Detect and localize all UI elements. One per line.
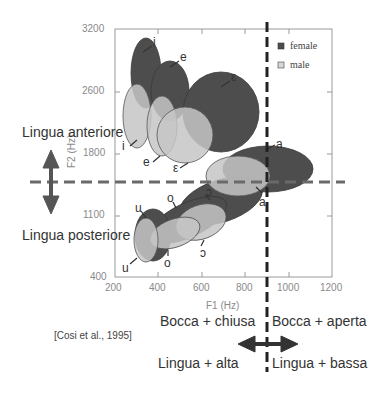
ellipse-male-eps [157, 107, 213, 163]
x-tick-200: 200 [105, 282, 122, 293]
label-male-a: a [259, 195, 266, 209]
x-axis-label: F1 (Hz) [206, 300, 239, 311]
citation: [Cosi et al., 1995] [54, 330, 132, 341]
y-tick-1100: 1100 [83, 209, 105, 220]
label-tongue-front: Lingua anteriore [22, 124, 123, 140]
y-tick-3200: 3200 [82, 23, 104, 34]
x-tick-1200: 1200 [320, 282, 342, 293]
label-female-open-o: ɔ [200, 246, 206, 260]
y-tick-400: 400 [90, 271, 107, 282]
label-male-eps: ε [173, 161, 179, 175]
x-tick-600: 600 [193, 282, 210, 293]
ellipse-male-u [134, 218, 158, 262]
ellipse-male-a [206, 156, 270, 196]
legend-male-swatch [278, 62, 284, 68]
label-female-u: u [135, 201, 142, 215]
label-female-a: a [276, 137, 283, 151]
label-female-i: i [153, 35, 156, 49]
x-tick-1000: 1000 [277, 282, 299, 293]
arrow-up-icon [43, 150, 59, 168]
label-female-e: e [180, 50, 187, 64]
label-male-u: u [122, 261, 129, 275]
x-tick-800: 800 [236, 282, 253, 293]
label-tongue-high: Lingua + alta [158, 355, 239, 371]
label-mouth-closed: Bocca + chiusa [160, 313, 255, 329]
label-male-open-o: ɔ [206, 185, 212, 199]
legend-female-label: female [290, 40, 318, 51]
label-female-eps: ε [231, 70, 237, 84]
y-tick-1800: 1800 [83, 147, 105, 158]
legend-female-swatch [278, 43, 284, 49]
label-male-o: o [164, 256, 171, 270]
arrow-right-icon [281, 336, 298, 352]
legend: female male [278, 40, 318, 70]
label-tongue-low: Lingua + bassa [272, 355, 367, 371]
arrow-left-icon [238, 336, 255, 352]
label-tongue-back: Lingua posteriore [22, 227, 130, 243]
label-male-i: i [122, 139, 125, 153]
arrow-down-icon [43, 196, 59, 214]
label-mouth-open: Bocca + aperta [272, 313, 367, 329]
ellipse-male-i [123, 84, 151, 148]
legend-male-label: male [290, 59, 310, 70]
label-female-o: o [167, 191, 174, 205]
y-tick-2600: 2600 [82, 85, 104, 96]
label-male-e: e [143, 155, 150, 169]
x-tick-400: 400 [149, 282, 166, 293]
